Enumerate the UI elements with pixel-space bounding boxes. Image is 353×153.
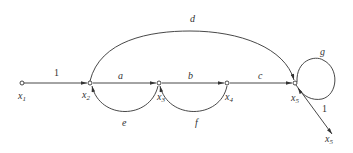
- node-label-x4: x4: [224, 91, 233, 104]
- gain-label-b: b: [188, 70, 193, 81]
- node-x3: [157, 81, 161, 85]
- gain-label-g: g: [320, 46, 325, 57]
- node-label-x2: x2: [81, 89, 90, 102]
- node-x4: [225, 81, 229, 85]
- gain-label-1: 1: [54, 67, 59, 78]
- node-label-x3: x3: [156, 91, 165, 104]
- edge-x3-x2-e: [92, 86, 158, 112]
- gain-label-c: c: [258, 70, 263, 81]
- gain-label-a: a: [118, 70, 123, 81]
- edge-x4-x3-f: [160, 86, 227, 112]
- node-label-x1: x1: [17, 90, 26, 103]
- gain-label-out: 1: [322, 103, 327, 114]
- gain-label-e: e: [122, 117, 127, 128]
- node-x5: [293, 81, 297, 85]
- gain-label-f: f: [195, 117, 199, 128]
- node-x2: [88, 81, 92, 85]
- edge-x5-self-g: [297, 58, 335, 99]
- signal-flow-graph: 1 a b c d e f g 1 x1 x2 x3 x4 x5 x5: [0, 0, 353, 153]
- gain-label-d: d: [190, 13, 196, 24]
- node-label-x5-output: x5: [324, 133, 333, 146]
- node-label-x5: x5: [290, 92, 299, 105]
- node-x1: [20, 81, 24, 85]
